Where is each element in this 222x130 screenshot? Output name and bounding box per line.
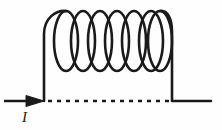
current-label: I [22, 110, 27, 125]
solenoid-diagram: I [0, 0, 222, 130]
solenoid-drawing-canvas [0, 0, 222, 130]
